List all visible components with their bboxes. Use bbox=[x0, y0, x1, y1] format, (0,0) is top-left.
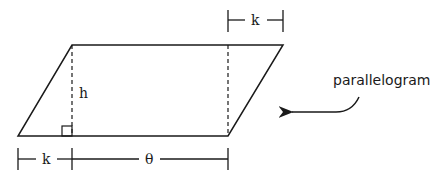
right-angle-marker bbox=[62, 126, 72, 136]
base-label: θ bbox=[145, 151, 153, 167]
top-offset-dimension: k bbox=[228, 10, 283, 32]
bottom-dimension: k θ bbox=[18, 148, 228, 170]
parallelogram-shape bbox=[18, 45, 283, 136]
parallelogram-diagram: h k k θ parallelogram bbox=[0, 0, 436, 182]
bottom-offset-label: k bbox=[42, 151, 51, 167]
height-label: h bbox=[79, 85, 88, 101]
callout-label: parallelogram bbox=[333, 72, 431, 88]
top-offset-label: k bbox=[251, 12, 260, 28]
callout-arrow-icon bbox=[292, 97, 359, 112]
